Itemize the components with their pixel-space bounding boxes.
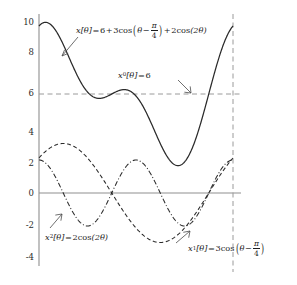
fraction-denominator-4: 4 bbox=[151, 32, 158, 40]
annotation-x1-cos: cos bbox=[221, 244, 235, 252]
figure-canvas: 10 8 6 4 2 0 -2 -4 x[θ] = 6 + 3 cos ( θ … bbox=[0, 0, 297, 285]
y-tick-label-8: 8 bbox=[12, 48, 34, 57]
fraction-pi-over-4: π 4 bbox=[253, 240, 260, 257]
annotation-x1-eq: = bbox=[208, 244, 216, 252]
annotation-x-mean: x0[θ] = 6 bbox=[118, 70, 151, 79]
annotation-x1-minus: − bbox=[244, 244, 252, 252]
annotation-x-total-cos2: cos bbox=[176, 26, 190, 34]
annotation-x1-fundamental: x1[θ] = 3 cos ( θ − π 4 ) bbox=[188, 240, 265, 257]
annotation-x-total-plus2: + bbox=[163, 26, 171, 34]
annotation-x2-eq: = bbox=[65, 233, 73, 241]
y-tick-label-negative-2: -2 bbox=[8, 221, 34, 230]
annotation-x-total-inner2: (2θ) bbox=[190, 26, 207, 34]
paren-open-icon: ( bbox=[133, 26, 136, 35]
annotation-x1-arg: [θ] bbox=[196, 244, 207, 252]
annotation-x-total: x[θ] = 6 + 3 cos ( θ − π 4 ) + 2 cos (2θ… bbox=[76, 22, 207, 39]
fraction-numerator-pi: π bbox=[151, 22, 158, 30]
paren-close-icon: ) bbox=[261, 244, 264, 253]
annotation-x2-arg: [θ] bbox=[53, 233, 64, 241]
annotation-x-mean-eq: = bbox=[138, 71, 146, 79]
fraction-numerator-pi: π bbox=[253, 240, 260, 248]
fraction-denominator-4: 4 bbox=[253, 250, 260, 258]
fraction-pi-over-4: π 4 bbox=[151, 22, 158, 39]
y-tick-label-10: 10 bbox=[12, 18, 34, 27]
annotation-x2-cos: cos bbox=[78, 233, 92, 241]
y-tick-label-0: 0 bbox=[12, 189, 34, 198]
annotation-x-mean-value: 6 bbox=[146, 71, 151, 79]
leader-line-x0 bbox=[178, 80, 191, 93]
leader-line-x2 bbox=[50, 214, 62, 228]
annotation-x2-harmonic: x2[θ] = 2 cos (2θ) bbox=[45, 232, 108, 241]
paren-open-icon: ( bbox=[235, 244, 238, 253]
y-tick-label-2: 2 bbox=[12, 159, 34, 168]
paren-close-icon: ) bbox=[159, 26, 162, 35]
annotation-x2-inner: (2θ) bbox=[92, 233, 109, 241]
annotation-x-total-cos1: cos bbox=[119, 26, 133, 34]
y-tick-label-6: 6 bbox=[12, 89, 34, 98]
y-tick-label-4: 4 bbox=[12, 128, 34, 137]
annotation-x-total-eq: = bbox=[92, 26, 100, 34]
annotation-x-total-arg: [θ] bbox=[81, 26, 92, 34]
annotation-x-mean-arg: [θ] bbox=[126, 71, 137, 79]
y-tick-label-negative-4: -4 bbox=[8, 253, 34, 262]
annotation-x-total-minus: − bbox=[142, 26, 150, 34]
annotation-x-total-plus1: + bbox=[105, 26, 113, 34]
